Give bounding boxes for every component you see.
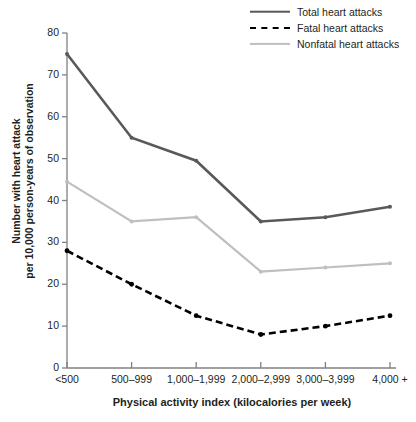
data-point-total-heart-attacks-5	[388, 205, 392, 209]
y-axis-tick-label: 40	[33, 195, 59, 206]
data-point-fatal-heart-attacks-4	[323, 324, 328, 329]
y-axis-title: Number with heart attack per 10,000 pers…	[10, 66, 36, 296]
data-point-nonfatal-heart-attacks-3	[259, 270, 263, 274]
data-point-fatal-heart-attacks-1	[129, 282, 134, 287]
data-point-fatal-heart-attacks-3	[258, 332, 263, 337]
data-point-fatal-heart-attacks-0	[65, 248, 70, 253]
series-line-total-heart-attacks	[67, 54, 390, 222]
data-point-fatal-heart-attacks-5	[388, 313, 393, 318]
data-point-nonfatal-heart-attacks-1	[130, 219, 134, 223]
x-axis-title: Physical activity index (kilocalories pe…	[48, 396, 416, 408]
data-point-total-heart-attacks-0	[65, 52, 69, 56]
y-axis-tick-label: 50	[33, 153, 59, 164]
y-axis-title-line1: Number with heart attack	[10, 118, 22, 243]
data-point-nonfatal-heart-attacks-5	[388, 261, 392, 265]
data-point-nonfatal-heart-attacks-0	[65, 180, 69, 184]
data-point-nonfatal-heart-attacks-4	[323, 266, 327, 270]
plot-svg	[0, 0, 416, 422]
data-point-total-heart-attacks-1	[130, 136, 134, 140]
data-point-fatal-heart-attacks-2	[194, 313, 199, 318]
series-line-fatal-heart-attacks	[67, 251, 390, 335]
y-axis-tick-label: 70	[33, 69, 59, 80]
x-axis-tick-label: 4,000 +	[351, 373, 416, 385]
y-axis-tick-label: 10	[33, 320, 59, 331]
data-point-total-heart-attacks-4	[323, 215, 327, 219]
y-axis-tick-label: 30	[33, 236, 59, 247]
plot-area: 80706050403020100 <500500–9991,000–1,999…	[0, 0, 416, 422]
y-axis-tick-label: 60	[33, 111, 59, 122]
y-axis-tick-label: 20	[33, 278, 59, 289]
y-axis-tick-label: 80	[33, 27, 59, 38]
data-point-total-heart-attacks-3	[259, 219, 263, 223]
data-point-nonfatal-heart-attacks-2	[194, 215, 198, 219]
data-point-total-heart-attacks-2	[194, 159, 198, 163]
chart-figure: Total heart attacks Fatal heart attacks …	[0, 0, 416, 422]
series-line-nonfatal-heart-attacks	[67, 182, 390, 272]
y-axis-title-line2: per 10,000 person-years of observation	[23, 83, 35, 279]
y-axis-tick-label: 0	[33, 362, 59, 373]
